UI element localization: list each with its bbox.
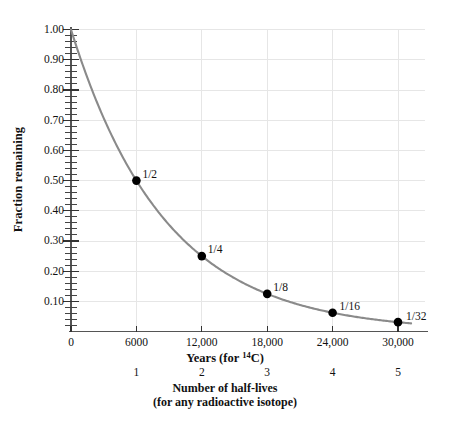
half-life-tick-label: 5 [395, 366, 401, 378]
x-tick-label: 24,000 [317, 336, 349, 348]
data-point-label: 1/2 [142, 168, 157, 180]
horizontal-gridlines [71, 30, 425, 302]
half-life-decay-chart: 1.00 0.90 0.80 0.70 0.60 0.50 0.40 0.30 … [0, 0, 450, 427]
x-axis-title-prefix: Years (for [186, 351, 242, 365]
secondary-x-axis-title: Number of half-lives (for any radioactiv… [0, 381, 450, 409]
secondary-x-axis-title-line1: Number of half-lives [172, 381, 277, 395]
half-life-tick-label: 2 [199, 366, 205, 378]
decay-curve [71, 30, 411, 324]
x-axis-title-suffix: C) [251, 351, 264, 365]
y-tick-label: 0.70 [24, 115, 64, 127]
y-tick-label: 0.80 [24, 84, 64, 96]
data-point-label: 1/8 [273, 281, 288, 293]
x-tick-label: 6000 [125, 336, 148, 348]
y-tick-label: 0.90 [24, 54, 64, 66]
data-point-marker [132, 176, 141, 185]
y-axis-title: Fraction remaining [11, 100, 26, 260]
data-point-marker [198, 252, 207, 261]
x-tick-label: 0 [68, 336, 74, 348]
half-life-tick-label: 3 [264, 366, 270, 378]
data-point-marker [328, 308, 337, 317]
y-tick-label: 0.30 [24, 235, 64, 247]
x-axis-title: Years (for 14C) [0, 350, 450, 366]
half-life-tick-label: 4 [330, 366, 336, 378]
data-point-label: 1/4 [208, 243, 223, 255]
y-tick-label: 0.50 [24, 175, 64, 187]
x-tick-label: 30,000 [382, 336, 414, 348]
x-tick-label: 12,000 [186, 336, 218, 348]
y-tick-label: 0.60 [24, 145, 64, 157]
y-tick-label: 0.40 [24, 205, 64, 217]
x-ticks [71, 326, 398, 332]
data-point-marker [394, 318, 403, 327]
x-axis-title-superscript: 14 [242, 350, 251, 360]
data-point-marker [263, 290, 272, 299]
y-tick-label: 0.10 [24, 296, 64, 308]
y-tick-label: 0.20 [24, 266, 64, 278]
half-life-tick-label: 1 [134, 366, 140, 378]
x-tick-label: 18,000 [251, 336, 283, 348]
y-tick-label: 1.00 [24, 24, 64, 36]
data-point-label: 1/32 [406, 310, 426, 322]
data-point-label: 1/16 [340, 300, 360, 312]
secondary-x-axis-title-line2: (for any radioactive isotope) [0, 395, 450, 409]
